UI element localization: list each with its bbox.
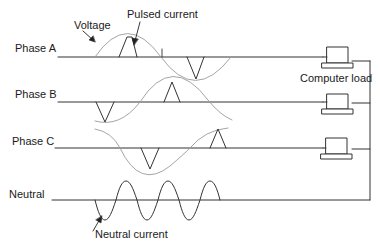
phase-b-pulse-positive — [164, 82, 180, 102]
computer-icon — [322, 94, 353, 114]
harmonic-diagram — [0, 0, 380, 251]
voltage-arrow — [83, 31, 95, 42]
phase-b-pulse-negative — [96, 102, 114, 122]
computer-icon — [321, 138, 352, 159]
pulsed-current-arrow — [132, 22, 140, 45]
neutral-current-label: Neutral current — [95, 229, 168, 240]
neutral-label: Neutral — [9, 189, 44, 200]
phase-c-voltage-curve — [95, 128, 228, 175]
phase-a-label: Phase A — [15, 43, 56, 54]
pulsed-current-label: Pulsed current — [127, 9, 198, 20]
phase-a-trace — [58, 34, 323, 81]
phase-c-pulse-negative — [141, 148, 159, 169]
phase-c-trace — [55, 128, 323, 175]
computer-icon — [322, 47, 353, 68]
phase-b-trace — [58, 76, 323, 122]
voltage-label: Voltage — [74, 20, 111, 31]
computer-load-label: Computer load — [300, 73, 372, 84]
phase-b-label: Phase B — [15, 89, 57, 100]
phase-c-label: Phase C — [12, 136, 54, 147]
phase-b-voltage-curve — [95, 76, 232, 122]
neutral-trace — [52, 181, 370, 220]
phase-a-pulse-negative — [187, 57, 204, 79]
